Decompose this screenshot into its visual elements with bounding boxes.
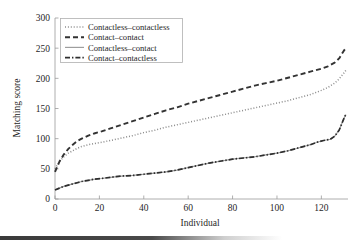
legend-label-1: Contact–contact (88, 32, 144, 42)
series-line-1 (55, 48, 346, 172)
matching-score-line-chart: 050100150200250300 020406080100120 Match… (0, 0, 362, 244)
x-tick-label: 40 (139, 203, 149, 213)
y-tick-label: 200 (36, 74, 51, 84)
y-tick-label: 100 (36, 134, 51, 144)
x-tick-label: 20 (95, 203, 105, 213)
x-tick-label: 0 (53, 203, 58, 213)
page-edge-bar (0, 236, 362, 240)
x-tick-label: 120 (314, 203, 329, 213)
legend-label-3: Contact–contactless (88, 53, 157, 63)
figure-container: 050100150200250300 020406080100120 Match… (0, 0, 362, 244)
y-tick-label: 150 (36, 104, 51, 114)
data-curves (55, 48, 346, 190)
y-axis-title: Matching score (12, 79, 22, 138)
y-tick-label: 300 (36, 13, 51, 23)
legend: Contactless–contactlessContact–contactCo… (61, 19, 183, 63)
series-line-3 (55, 115, 346, 190)
series-line-0 (55, 70, 346, 168)
x-axis-title: Individual (180, 218, 219, 228)
y-tick-label: 50 (41, 164, 51, 174)
x-axis-ticks: 020406080100120 (53, 196, 329, 214)
y-tick-label: 250 (36, 44, 51, 54)
x-tick-label: 100 (270, 203, 285, 213)
x-tick-label: 80 (228, 203, 238, 213)
x-tick-label: 60 (183, 203, 193, 213)
legend-label-2: Contactless–contact (88, 43, 157, 53)
y-tick-label: 0 (45, 194, 50, 204)
legend-label-0: Contactless–contactless (88, 22, 170, 32)
